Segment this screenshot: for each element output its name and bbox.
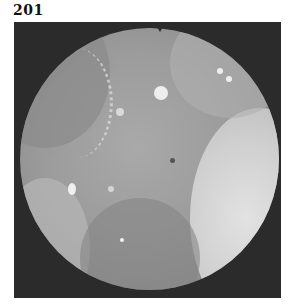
- highlight: [68, 183, 76, 195]
- highlight: [217, 68, 223, 74]
- upper-right-ridge: [170, 28, 279, 118]
- scope-notch: [154, 22, 166, 32]
- dark-spot: [170, 158, 175, 163]
- lower-left-band: [20, 178, 90, 290]
- lower-channel: [80, 198, 200, 290]
- endoscopic-view: [20, 28, 279, 290]
- highlight: [108, 186, 114, 192]
- figure-label: 201: [13, 2, 44, 18]
- beaded-edge: [40, 48, 113, 158]
- image-frame: [14, 22, 281, 298]
- highlight: [154, 86, 168, 100]
- right-bright-fold: [190, 108, 279, 290]
- highlight: [120, 238, 124, 242]
- highlight: [226, 76, 232, 82]
- highlight: [116, 108, 124, 116]
